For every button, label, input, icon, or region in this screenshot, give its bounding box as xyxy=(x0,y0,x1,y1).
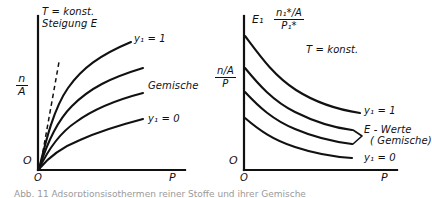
right-curve-y1-equals-0 xyxy=(245,118,352,158)
figure-caption: Abb. 11 Adsorptionsisothermen reiner Sto… xyxy=(14,189,414,197)
right-fraction-numerator: n₁*/A xyxy=(274,8,304,19)
left-curve-label-bottom: y₁ = 0 xyxy=(148,113,180,124)
left-origin-label-y: O xyxy=(23,155,32,167)
left-curve-y1-equals-1 xyxy=(39,42,131,169)
right-e-werte-pointer xyxy=(353,130,362,144)
left-y-axis-label: n A xyxy=(16,73,28,98)
right-curve-gemisch-a xyxy=(245,68,352,130)
right-panel-plot xyxy=(212,0,425,198)
right-y-axis-numerator: n/A xyxy=(215,66,236,77)
right-fraction-denominator: P₁* xyxy=(274,19,304,32)
left-panel-plot xyxy=(0,0,213,198)
chart-panel-right: E₁ n₁*/A P₁* T = konst. n/A P O O P y₁ =… xyxy=(212,0,425,198)
left-curve-label-middle: Gemische xyxy=(148,80,198,91)
right-header-fraction: n₁*/A P₁* xyxy=(274,8,304,31)
left-origin-label-x: O xyxy=(34,172,42,183)
right-curve-label-middle-line1: E - Werte xyxy=(364,124,411,135)
left-y-axis-denominator: A xyxy=(16,85,28,99)
right-curve-label-middle-line2: ( Gemische) xyxy=(370,135,432,146)
chart-panel-left: T = konst. Steigung E n A O O P y₁ = 1 G… xyxy=(0,0,213,198)
left-curve-label-top: y₁ = 1 xyxy=(134,33,166,44)
right-x-axis-label: P xyxy=(381,172,388,184)
right-y-axis-denominator: P xyxy=(215,77,236,90)
right-origin-label-x: O xyxy=(240,172,248,183)
right-corner-label: E₁ xyxy=(252,14,264,26)
left-header-line1: T = konst. xyxy=(42,6,94,17)
left-x-axis-label: P xyxy=(169,172,176,184)
right-curve-label-top: y₁ = 1 xyxy=(364,105,396,116)
right-y-axis-label: n/A P xyxy=(215,66,236,89)
right-origin-label-y: O xyxy=(229,155,238,167)
left-header-line2: Steigung E xyxy=(42,18,97,29)
left-y-axis-numerator: n xyxy=(16,73,28,85)
right-curve-label-bottom: y₁ = 0 xyxy=(364,152,396,163)
right-curve-gemisch-b xyxy=(245,92,352,144)
right-header-line: T = konst. xyxy=(306,44,358,55)
